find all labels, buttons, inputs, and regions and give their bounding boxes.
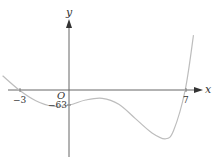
x-axis-arrow-icon [194, 87, 203, 93]
x-axis-label: x [205, 83, 212, 96]
chart: y x O −3 7 −63 [0, 0, 215, 163]
x-tick-label-7: 7 [183, 95, 189, 105]
x-tick-label-neg3: −3 [13, 95, 27, 105]
y-axis-label: y [65, 6, 73, 19]
y-axis-arrow-icon [66, 19, 72, 28]
y-tick-label-neg63: −63 [48, 100, 67, 110]
series-curve [3, 35, 194, 139]
